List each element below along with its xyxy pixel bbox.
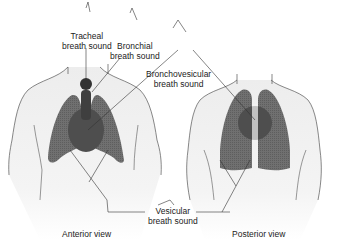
bronchovesicular-label: Bronchovesicular breath sound (146, 70, 211, 89)
tracheal-label: Tracheal breath sound (62, 32, 112, 51)
vesicular-label: Vesicular breath sound (148, 207, 198, 226)
anterior-view-label: Anterior view (62, 230, 111, 240)
bronchial-label: Bronchial breath sound (110, 42, 160, 61)
breath-sounds-diagram: Tracheal breath sound Bronchial breath s… (0, 0, 341, 245)
bronchial-zone (81, 90, 91, 120)
posterior-view-label: Posterior view (232, 230, 285, 240)
